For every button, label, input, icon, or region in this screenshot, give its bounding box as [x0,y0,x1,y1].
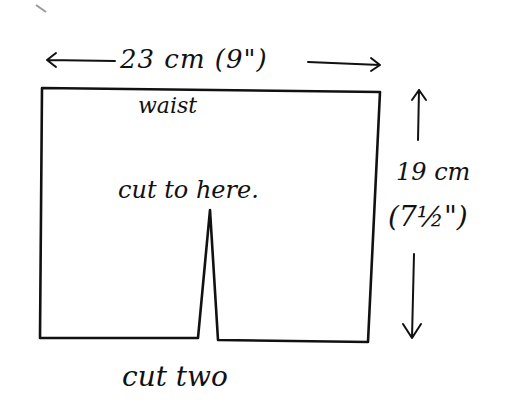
up-arrow-icon [412,90,426,140]
cut-to-here-label: cut to here. [118,178,259,202]
left-arrow-icon [47,53,115,67]
down-arrow-icon [403,254,421,338]
pattern-outline [40,88,380,342]
right-arrow-icon [308,58,380,71]
waist-label: waist [138,95,197,117]
cut-two-label: cut two [122,363,228,391]
stray-pencil-mark [36,5,46,12]
height-inch-label: (7½") [388,203,468,231]
width-label: 23 cm (9") [120,46,268,72]
height-cm-label: 19 cm [396,160,470,184]
